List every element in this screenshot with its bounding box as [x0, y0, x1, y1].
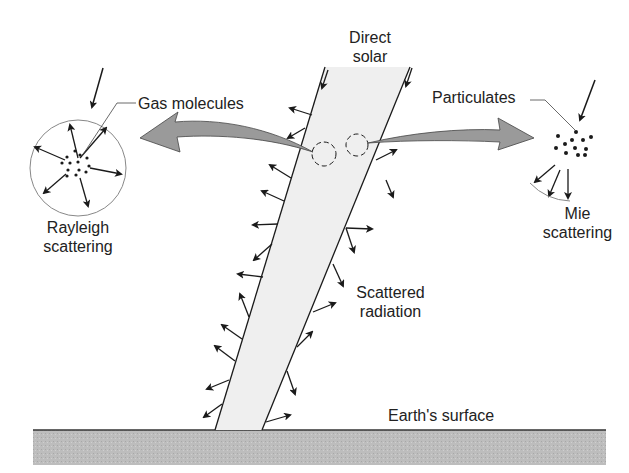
label-mie-scattering-word: scattering	[530, 223, 625, 242]
label-gas-molecules: Gas molecules	[138, 94, 244, 113]
label-particulates: Particulates	[432, 88, 516, 107]
label-direct-solar: Direct solar	[335, 28, 405, 66]
label-mie: Mie	[530, 204, 625, 223]
earth-surface-ground	[33, 430, 606, 465]
label-scattered-radiation: Scattered radiation	[348, 283, 433, 321]
label-solar: solar	[335, 47, 405, 66]
mie-scattering-illustration	[530, 80, 595, 201]
arrow-to-rayleigh	[140, 112, 313, 152]
label-radiation: radiation	[348, 302, 433, 321]
rayleigh-scattering-illustration	[30, 68, 136, 216]
label-rayleigh-scattering: Rayleigh scattering	[28, 218, 128, 256]
label-rayleigh-scattering-word: scattering	[28, 237, 128, 256]
arrow-to-mie	[368, 118, 534, 150]
label-mie-scattering: Mie scattering	[530, 204, 625, 242]
label-scattered: Scattered	[348, 283, 433, 302]
solar-beam	[215, 67, 410, 430]
label-rayleigh: Rayleigh	[28, 218, 128, 237]
label-direct: Direct	[335, 28, 405, 47]
label-earth-surface: Earth's surface	[388, 406, 494, 425]
